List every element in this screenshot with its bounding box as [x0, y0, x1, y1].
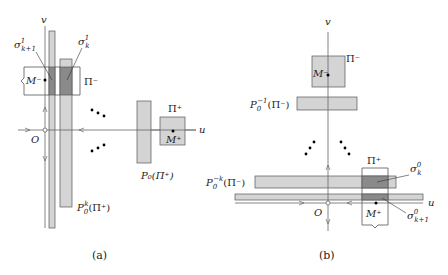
figure: v u O σ1k+1 σ1k M⁻ Π⁻ Π⁺ M⁺ P₀(Π⁺) P0k(Π… [0, 0, 448, 275]
v-axis-label: v [325, 16, 331, 27]
ellipsis-dots-upper [91, 109, 106, 118]
sigma-k-label: σ1k [78, 34, 90, 50]
p0-pi-plus-label: P₀(Π⁺) [140, 170, 174, 181]
sigma-k1-label: σ1k+1 [14, 37, 36, 53]
u-axis-label: u [428, 197, 434, 208]
panel-a: v u O σ1k+1 σ1k M⁻ Π⁻ Π⁺ M⁺ P₀(Π⁺) P0k(Π… [14, 14, 205, 262]
pi-plus-label: Π⁺ [367, 155, 381, 166]
pi-minus-label: Π⁻ [84, 76, 98, 87]
m-minus-point [44, 79, 47, 82]
origin-point [326, 201, 330, 205]
p0negk-pi-minus-label: P0−k(Π⁻) [205, 175, 245, 191]
thin-horizontal-strip [235, 194, 423, 200]
sigma-k1-label: σ0k+1 [407, 208, 429, 224]
caption-a: (a) [92, 249, 107, 262]
m-plus-point [172, 130, 175, 133]
p0k-pi-plus-label: P0k(Π⁺) [76, 200, 110, 216]
ellipsis-dots-right [340, 141, 351, 156]
m-plus-point [375, 202, 378, 205]
ellipsis-dots-left [305, 141, 316, 156]
m-minus-label: M⁻ [25, 75, 42, 86]
p0inv-pi-minus-label: P0−1(Π⁻) [249, 97, 289, 113]
origin-label: O [314, 207, 322, 218]
m-minus-label: M⁻ [312, 68, 329, 79]
origin-point [43, 128, 47, 132]
sigma-k-overlap [60, 67, 72, 95]
sigma-k-overlap [362, 176, 388, 188]
ellipsis-dots-lower [91, 144, 106, 153]
u-axis-label: u [199, 124, 205, 135]
panel-b: v u O Π⁻ M⁻ P0−1(Π⁻) P0−k(Π⁻) Π⁺ M⁺ σ0k … [205, 16, 434, 262]
caption-b: (b) [319, 249, 335, 262]
m-plus-label: M⁺ [365, 208, 382, 219]
sigma-k1-overlap [49, 67, 55, 95]
m-plus-label: M⁺ [165, 134, 182, 145]
pi-minus-label: Π⁻ [346, 53, 360, 64]
thin-vertical-strip [49, 31, 55, 228]
sigma-k-label: σ0k [410, 161, 422, 177]
p0-pi-plus-strip [137, 101, 151, 163]
p0inv-pi-minus-strip [297, 97, 357, 110]
origin-label: O [31, 134, 39, 145]
pi-plus-label: Π⁺ [168, 103, 182, 114]
v-axis-label: v [41, 14, 47, 25]
